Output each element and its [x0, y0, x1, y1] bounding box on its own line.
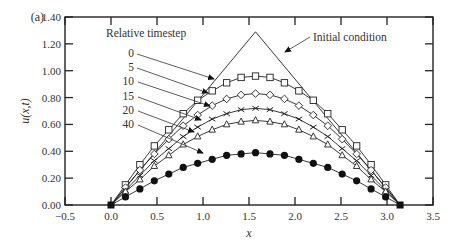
relative-timestep-label: Relative timestep	[106, 27, 186, 40]
x-tick-label: 3.5	[426, 210, 440, 222]
x-axis-title: x	[245, 226, 252, 240]
endpoint-marker	[397, 202, 404, 209]
filled-circle-marker	[353, 177, 360, 184]
filled-circle-marker	[339, 171, 346, 178]
y-axis-title: u(x,t)	[18, 98, 32, 124]
timestep-label-0: 0	[128, 47, 134, 59]
filled-circle-marker	[194, 160, 201, 167]
y-tick-label: 0.60	[42, 118, 62, 130]
square-marker	[281, 80, 287, 86]
square-marker	[238, 74, 244, 80]
diamond-marker	[266, 91, 274, 99]
square-marker	[267, 74, 273, 80]
filled-circle-marker	[209, 156, 216, 163]
timestep-label-20: 20	[123, 104, 135, 116]
x-tick-label: 0.0	[104, 210, 118, 222]
timestep-label-15: 15	[123, 90, 135, 102]
diamond-marker	[310, 111, 318, 119]
cross-marker	[194, 125, 200, 129]
diamond-marker	[252, 90, 260, 98]
square-marker	[209, 88, 215, 94]
triangle-marker	[166, 152, 172, 158]
filled-circle-marker	[367, 185, 374, 192]
cross-marker	[180, 134, 186, 138]
diamond-marker	[237, 91, 245, 99]
filled-circle-marker	[295, 156, 302, 163]
timestep-label-40: 40	[123, 118, 135, 130]
x-tick-label: 2.5	[334, 210, 348, 222]
y-tick-label: 1.00	[42, 65, 62, 77]
x-tick-label: 1.0	[196, 210, 210, 222]
square-marker	[296, 88, 302, 94]
y-tick-label: 0.80	[42, 92, 62, 104]
square-marker	[353, 143, 359, 149]
endpoint-marker	[108, 202, 115, 209]
cross-marker	[296, 117, 302, 121]
cross-marker	[223, 111, 229, 115]
x-tick-label: 3.0	[380, 210, 394, 222]
heat-equation-chart: 0.000.200.400.600.801.001.201.40 −0.50.0…	[0, 0, 464, 252]
square-marker	[310, 97, 316, 103]
cross-marker	[209, 117, 215, 121]
y-tick-label: 0.20	[42, 172, 62, 184]
timestep-label-10: 10	[123, 75, 135, 87]
x-tick-label: 1.5	[242, 210, 256, 222]
filled-circle-marker	[281, 152, 288, 159]
y-tick-label: 0.40	[42, 145, 62, 157]
filled-circle-marker	[165, 171, 172, 178]
cross-marker	[325, 134, 331, 138]
filled-circle-marker	[382, 193, 389, 200]
timestep-label-5: 5	[128, 61, 134, 73]
filled-circle-marker	[310, 160, 317, 167]
filled-circle-marker	[151, 177, 158, 184]
cross-marker	[339, 146, 345, 150]
square-marker	[151, 143, 157, 149]
filled-circle-marker	[180, 164, 187, 171]
filled-circle-marker	[136, 185, 143, 192]
x-axis: −0.50.00.51.01.52.02.53.03.5	[55, 17, 440, 222]
triangle-marker	[339, 152, 345, 158]
triangle-marker	[325, 141, 331, 147]
x-tick-label: −0.5	[55, 210, 75, 222]
arrow-initial-condition	[285, 37, 310, 52]
plot-border	[65, 17, 433, 205]
cross-marker	[281, 111, 287, 115]
plot-frame	[65, 17, 433, 205]
square-marker	[223, 80, 229, 86]
filled-circle-marker	[324, 164, 331, 171]
square-marker	[325, 110, 331, 116]
diamond-marker	[295, 102, 303, 110]
square-marker	[166, 127, 172, 133]
x-tick-label: 0.5	[150, 210, 164, 222]
filled-circle-marker	[223, 152, 230, 159]
filled-circle-marker	[122, 193, 129, 200]
filled-circle-marker	[252, 149, 259, 156]
cross-marker	[166, 146, 172, 150]
y-tick-label: 1.20	[42, 38, 62, 50]
square-marker	[339, 127, 345, 133]
triangle-marker	[252, 117, 258, 123]
arrow-timestep-0	[137, 54, 214, 79]
filled-circle-marker	[237, 150, 244, 157]
arrow-timestep-10	[138, 82, 210, 106]
x-tick-label: 2.0	[288, 210, 302, 222]
cross-marker	[310, 125, 316, 129]
y-tick-label: 1.40	[42, 11, 62, 23]
diamond-marker	[223, 95, 231, 103]
diamond-marker	[281, 95, 289, 103]
square-marker	[252, 73, 258, 79]
arrow-timestep-5	[137, 68, 208, 93]
series-layer	[108, 32, 404, 209]
filled-circle-marker	[266, 150, 273, 157]
panel-label: (a)	[31, 10, 44, 24]
initial-condition-label: Initial condition	[313, 31, 387, 43]
